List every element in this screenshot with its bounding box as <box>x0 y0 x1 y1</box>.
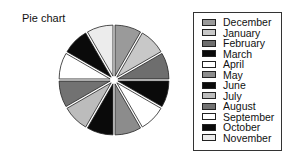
legend-label: February <box>223 38 265 48</box>
legend-label: October <box>223 122 260 132</box>
legend-swatch <box>202 124 216 131</box>
legend-item: April <box>202 59 281 70</box>
legend-label: April <box>223 59 244 69</box>
pie-chart <box>0 0 180 161</box>
legend-label: September <box>223 112 274 122</box>
legend-swatch <box>202 134 216 141</box>
legend-swatch <box>202 82 216 89</box>
legend-swatch <box>202 92 216 99</box>
legend-item: February <box>202 38 281 49</box>
legend-item: November <box>202 133 281 144</box>
legend-label: December <box>223 17 271 27</box>
legend-swatch <box>202 40 216 47</box>
legend-item: December <box>202 17 281 28</box>
legend-label: July <box>223 91 242 101</box>
legend-label: March <box>223 49 252 59</box>
legend-label: August <box>223 101 256 111</box>
legend-item: October <box>202 122 281 133</box>
legend-swatch <box>202 50 216 57</box>
legend-item: August <box>202 101 281 112</box>
legend-swatch <box>202 103 216 110</box>
legend-label: January <box>223 28 260 38</box>
legend-label: November <box>223 133 271 143</box>
legend-label: May <box>223 70 243 80</box>
legend: DecemberJanuaryFebruaryMarchAprilMayJune… <box>193 12 282 151</box>
legend-item: June <box>202 80 281 91</box>
legend-swatch <box>202 61 216 68</box>
legend-swatch <box>202 113 216 120</box>
legend-swatch <box>202 19 216 26</box>
legend-swatch <box>202 29 216 36</box>
legend-swatch <box>202 71 216 78</box>
legend-label: June <box>223 80 246 90</box>
